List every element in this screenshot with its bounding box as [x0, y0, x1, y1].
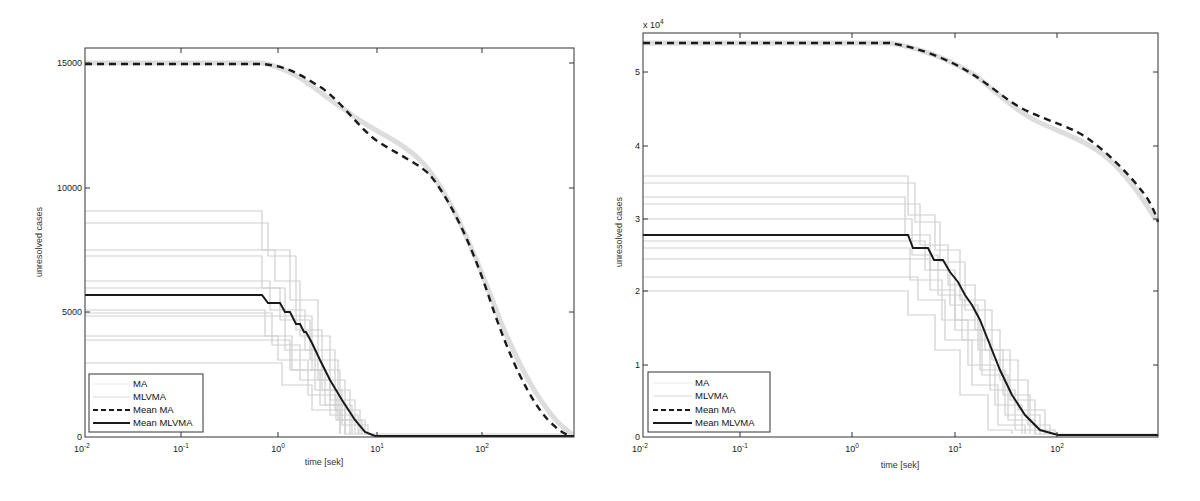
- left-x-tick-1e-2: 10-2: [74, 442, 90, 454]
- right-y-multiplier: x 104: [643, 18, 664, 30]
- right-x-tick-1e0: 100: [845, 442, 859, 454]
- left-x-ticks: [181, 48, 482, 437]
- right-legend: MA MLVMA Mean MA Mean MLVMA: [648, 372, 770, 432]
- left-y-axis-label: unresolved cases: [34, 206, 44, 277]
- right-x-tick-1e2: 102: [1050, 442, 1064, 454]
- right-legend-ma: MA: [695, 377, 710, 388]
- left-y-tick-15000: 15000: [57, 58, 82, 68]
- right-ma-band: [643, 43, 1156, 220]
- left-x-tick-1e1: 101: [370, 442, 384, 454]
- left-x-tick-1e2: 102: [475, 442, 489, 454]
- right-x-axis-label: time [sek]: [881, 460, 920, 470]
- left-y-tick-5000: 5000: [62, 307, 82, 317]
- right-legend-mlvma: MLVMA: [695, 390, 729, 401]
- right-legend-mean-mlvma: Mean MLVMA: [695, 417, 755, 428]
- right-y-tick-4: 4: [635, 141, 640, 151]
- left-y-tick-10000: 10000: [57, 183, 82, 193]
- left-x-tick-1e0: 100: [271, 442, 285, 454]
- right-chart: x 104 5 4 3 2 1 0 10-2 10-1 100 101 102 …: [614, 18, 1158, 470]
- right-y-tick-3: 3: [635, 214, 640, 224]
- right-y-tick-2: 2: [635, 286, 640, 296]
- right-y-tick-0: 0: [635, 432, 640, 442]
- left-legend-mlvma: MLVMA: [133, 391, 167, 402]
- left-legend-mean-ma: Mean MA: [133, 404, 174, 415]
- left-legend-ma: MA: [133, 378, 148, 389]
- right-mean-ma-line: [643, 43, 1158, 222]
- right-y-axis-label: unresolved cases: [614, 196, 624, 267]
- left-y-tick-0: 0: [77, 432, 82, 442]
- left-x-axis-label: time [sek]: [305, 457, 344, 467]
- right-y-tick-1: 1: [635, 360, 640, 370]
- left-legend: MA MLVMA Mean MA Mean MLVMA: [89, 374, 203, 432]
- left-legend-mean-mlvma: Mean MLVMA: [133, 417, 193, 428]
- right-x-tick-1e-1: 10-1: [732, 442, 748, 454]
- left-x-tick-1e-1: 10-1: [173, 442, 189, 454]
- right-x-tick-1e-2: 10-2: [632, 442, 648, 454]
- right-legend-mean-ma: Mean MA: [695, 404, 736, 415]
- left-chart: 15000 10000 5000 0 10-2 10-1 100 101 102…: [34, 48, 574, 467]
- right-y-tick-5: 5: [635, 67, 640, 77]
- right-x-tick-1e1: 101: [948, 442, 962, 454]
